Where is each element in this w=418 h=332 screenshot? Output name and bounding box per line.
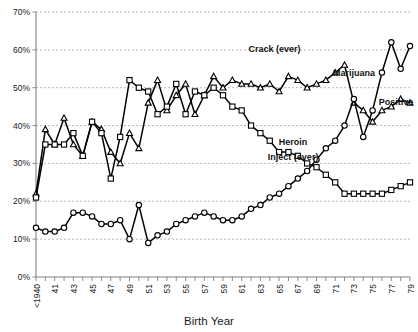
data-point-square	[323, 172, 328, 177]
data-point-square	[127, 78, 132, 83]
data-point-square	[33, 195, 38, 200]
data-point-circle	[33, 225, 38, 230]
x-tick-label: 55	[181, 284, 191, 294]
x-tick-label: 53	[162, 284, 172, 294]
data-point-square	[192, 89, 197, 94]
x-tick-label: 45	[88, 284, 98, 294]
x-axis-title: Birth Year	[184, 315, 234, 327]
data-point-circle	[136, 202, 141, 207]
data-point-square	[202, 93, 207, 98]
data-point-circle	[183, 218, 188, 223]
data-point-triangle	[229, 77, 235, 82]
data-point-triangle	[183, 81, 189, 86]
data-point-triangle	[239, 81, 245, 86]
data-point-square	[351, 191, 356, 196]
y-tick-label: 10%	[13, 234, 30, 244]
heroin-label-line2: Inject (ever)	[268, 152, 319, 162]
data-point-triangle	[257, 85, 263, 90]
data-point-square	[389, 187, 394, 192]
data-point-circle	[202, 210, 207, 215]
data-point-circle	[164, 229, 169, 234]
data-point-circle	[389, 40, 394, 45]
data-point-square	[71, 131, 76, 136]
x-tick-label: 57	[200, 284, 210, 294]
data-point-triangle	[314, 81, 320, 86]
heroin-label-line1: Heroin	[279, 137, 308, 147]
data-point-square	[136, 85, 141, 90]
data-point-circle	[108, 221, 113, 226]
data-point-circle	[239, 214, 244, 219]
data-point-triangle	[127, 130, 133, 135]
x-tick-label: 59	[219, 284, 229, 294]
x-tick-label: 63	[256, 284, 266, 294]
data-point-square	[52, 142, 57, 147]
data-point-circle	[43, 229, 48, 234]
y-tick-label: 20%	[13, 196, 30, 206]
x-tick-label: 47	[106, 284, 116, 294]
data-point-triangle	[42, 126, 48, 131]
data-point-circle	[286, 183, 291, 188]
data-point-circle	[323, 146, 328, 151]
y-tick-label: 30%	[13, 158, 30, 168]
data-point-circle	[99, 221, 104, 226]
x-tick-label: 65	[275, 284, 285, 294]
data-point-circle	[220, 218, 225, 223]
data-point-circle	[230, 218, 235, 223]
data-point-circle	[146, 240, 151, 245]
data-point-square	[361, 191, 366, 196]
x-tick-label: 75	[368, 284, 378, 294]
x-axis-tick-labels: <194041434547495153555759616365676971737…	[32, 277, 416, 308]
axes	[36, 12, 410, 277]
data-point-triangle	[342, 62, 348, 67]
data-point-square	[108, 176, 113, 181]
data-point-square	[398, 184, 403, 189]
data-point-triangle	[61, 115, 67, 120]
x-tick-label: 79	[406, 284, 416, 294]
data-point-circle	[351, 96, 356, 101]
y-tick-label: 70%	[13, 7, 30, 17]
y-tick-label: 0%	[18, 272, 31, 282]
x-tick-label: 43	[69, 284, 79, 294]
data-point-triangle	[211, 73, 217, 78]
data-point-square	[174, 81, 179, 86]
data-point-circle	[370, 108, 375, 113]
data-point-triangle	[267, 81, 273, 86]
data-point-circle	[295, 176, 300, 181]
data-point-circle	[80, 210, 85, 215]
data-point-triangle	[379, 107, 385, 112]
data-point-circle	[117, 218, 122, 223]
data-point-triangle	[70, 141, 76, 146]
data-point-circle	[52, 229, 57, 234]
data-point-circle	[333, 138, 338, 143]
data-point-square	[239, 108, 244, 113]
data-point-circle	[276, 191, 281, 196]
x-tick-label: 73	[349, 284, 359, 294]
data-point-triangle	[108, 149, 114, 154]
data-point-square	[370, 191, 375, 196]
data-point-square	[146, 89, 151, 94]
data-point-triangle	[145, 100, 151, 105]
positive-label: Positive	[379, 97, 414, 107]
x-tick-label: <1940	[32, 284, 42, 308]
data-point-circle	[379, 70, 384, 75]
crack-ever-label: Crack (ever)	[248, 44, 300, 54]
data-point-circle	[192, 214, 197, 219]
data-point-circle	[304, 168, 309, 173]
x-tick-label: 71	[331, 284, 341, 294]
data-point-circle	[248, 206, 253, 211]
data-point-square	[333, 180, 338, 185]
data-point-square	[99, 131, 104, 136]
data-point-circle	[89, 214, 94, 219]
data-point-square	[155, 112, 160, 117]
y-tick-label: 60%	[13, 45, 30, 55]
y-tick-label: 50%	[13, 83, 30, 93]
data-point-square	[43, 142, 48, 147]
data-point-circle	[174, 221, 179, 226]
data-point-triangle	[285, 73, 291, 78]
x-tick-label: 51	[144, 284, 154, 294]
data-point-circle	[211, 214, 216, 219]
chart-canvas: 0%10%20%30%40%50%60%70% <194041434547495…	[0, 0, 418, 332]
data-point-square	[230, 104, 235, 109]
data-point-square	[267, 138, 272, 143]
data-point-square	[407, 180, 412, 185]
